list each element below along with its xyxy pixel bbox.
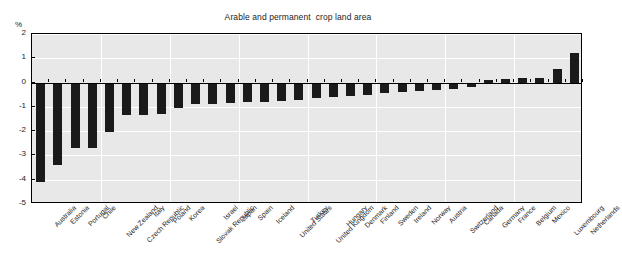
x-tick-mark	[289, 79, 290, 82]
bar	[415, 83, 424, 92]
bar	[36, 83, 45, 183]
y-tick-mark	[31, 106, 35, 107]
gridline-horizontal	[32, 131, 581, 132]
x-tick-mark	[479, 79, 480, 82]
x-tick-label: Iceland	[275, 204, 297, 226]
gridline-vertical	[101, 34, 102, 202]
zero-axis-line	[32, 83, 581, 84]
y-tick-label: -5	[0, 199, 26, 207]
gridline-vertical	[376, 34, 377, 202]
plot-area	[31, 33, 582, 203]
x-tick-mark	[341, 79, 342, 82]
bar	[226, 83, 235, 104]
x-tick-mark	[530, 79, 531, 82]
x-tick-mark	[513, 79, 514, 82]
x-tick-mark	[48, 79, 49, 82]
x-tick-label: Japan	[240, 204, 259, 223]
bar	[312, 83, 321, 99]
y-tick-label: 2	[0, 29, 26, 37]
bar	[570, 53, 579, 82]
gridline-vertical	[514, 34, 515, 202]
x-axis-labels: AustraliaEstoniaPortugalChileNew Zealand…	[31, 204, 582, 273]
x-tick-mark	[410, 79, 411, 82]
gridline-horizontal	[32, 34, 581, 35]
bar	[191, 83, 200, 105]
bar	[294, 83, 303, 100]
x-tick-mark	[427, 79, 428, 82]
bar	[174, 83, 183, 109]
bar	[380, 83, 389, 94]
x-tick-mark	[134, 79, 135, 82]
x-tick-mark	[324, 79, 325, 82]
x-tick-mark	[461, 79, 462, 82]
bar	[105, 83, 114, 133]
x-tick-mark	[272, 79, 273, 82]
bar	[398, 83, 407, 93]
bar	[363, 83, 372, 95]
y-tick-mark	[31, 57, 35, 58]
gridline-vertical	[308, 34, 309, 202]
bar	[71, 83, 80, 149]
x-tick-mark	[307, 79, 308, 82]
x-tick-mark	[100, 79, 101, 82]
x-tick-mark	[31, 79, 32, 82]
x-tick-mark	[548, 79, 549, 82]
bar	[432, 83, 441, 90]
bar	[260, 83, 269, 102]
y-tick-label: -3	[0, 150, 26, 158]
x-tick-mark	[582, 79, 583, 82]
y-tick-label: 0	[0, 78, 26, 86]
x-tick-mark	[117, 79, 118, 82]
y-tick-label: -4	[0, 175, 26, 183]
x-tick-mark	[496, 79, 497, 82]
x-tick-mark	[393, 79, 394, 82]
bar	[122, 83, 131, 116]
gridline-vertical	[170, 34, 171, 202]
y-tick-mark	[31, 130, 35, 131]
x-tick-mark	[65, 79, 66, 82]
gridline-horizontal	[32, 107, 581, 108]
bar	[329, 83, 338, 98]
x-tick-mark	[169, 79, 170, 82]
y-tick-mark	[31, 154, 35, 155]
bar	[88, 83, 97, 149]
x-tick-mark	[152, 79, 153, 82]
bar	[53, 83, 62, 166]
bar	[208, 83, 217, 105]
gridline-vertical	[239, 34, 240, 202]
y-tick-label: -1	[0, 102, 26, 110]
x-tick-mark	[375, 79, 376, 82]
x-tick-mark	[238, 79, 239, 82]
x-tick-label: Norway	[430, 204, 452, 226]
bar	[346, 83, 355, 96]
gridline-vertical	[445, 34, 446, 202]
bar	[553, 69, 562, 82]
x-tick-mark	[444, 79, 445, 82]
x-tick-mark	[203, 79, 204, 82]
x-tick-mark	[83, 79, 84, 82]
y-tick-mark	[31, 179, 35, 180]
y-tick-mark	[31, 82, 35, 83]
bar	[243, 83, 252, 102]
x-tick-label: Spain	[256, 204, 274, 222]
chart-title: Arable and permanent crop land area	[0, 12, 596, 22]
x-tick-mark	[220, 79, 221, 82]
x-tick-mark	[255, 79, 256, 82]
x-tick-mark	[358, 79, 359, 82]
bar	[157, 83, 166, 115]
gridline-horizontal	[32, 58, 581, 59]
bar	[277, 83, 286, 101]
x-tick-mark	[186, 79, 187, 82]
bar	[139, 83, 148, 116]
gridline-horizontal	[32, 180, 581, 181]
y-tick-label: 1	[0, 53, 26, 61]
x-tick-mark	[565, 79, 566, 82]
gridline-horizontal	[32, 155, 581, 156]
y-tick-label: -2	[0, 126, 26, 134]
